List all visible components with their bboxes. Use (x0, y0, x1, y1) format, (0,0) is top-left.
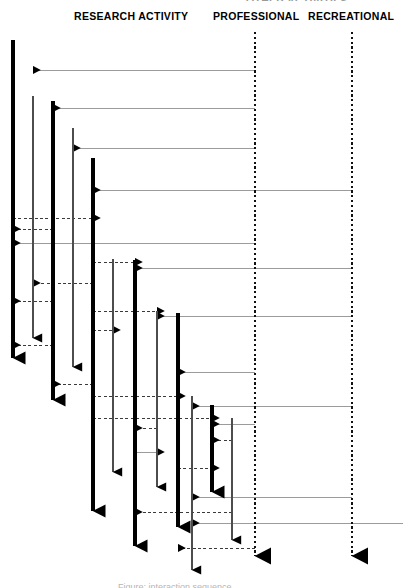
lifelines-layer (13, 32, 352, 570)
diagram-svg (0, 0, 403, 588)
sequence-diagram-canvas: OTHER ACTIVITIES RESEARCH ACTIVITY PROFE… (0, 0, 403, 588)
messages-layer (13, 70, 403, 548)
clipped-bottom-caption: Figure: interaction sequence (118, 582, 398, 588)
